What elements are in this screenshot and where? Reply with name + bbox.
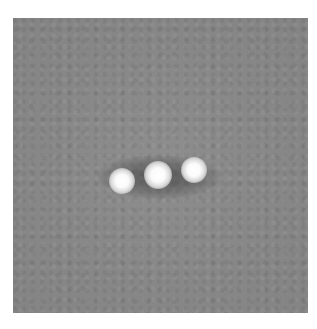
center-spot xyxy=(144,161,172,189)
right-spot xyxy=(181,157,207,183)
micrograph-panel xyxy=(13,18,308,313)
left-spot xyxy=(109,168,135,194)
